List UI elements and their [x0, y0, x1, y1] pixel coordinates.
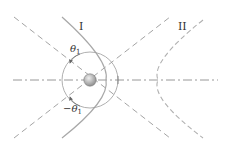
label-branch-2: II — [178, 20, 187, 33]
label-theta-pos: θ1 — [70, 43, 81, 56]
theta-pos-subscript: 1 — [76, 48, 80, 56]
focus-sphere-icon — [84, 74, 96, 86]
hyperbola-branch-2 — [157, 20, 203, 138]
label-theta-neg: −θ1 — [63, 103, 82, 116]
hyperbola-diagram: I II θ1 −θ1 — [0, 0, 231, 153]
theta-neg-symbol: −θ — [63, 103, 77, 114]
label-branch-1: I — [79, 20, 83, 33]
theta-neg-subscript: 1 — [77, 108, 81, 116]
